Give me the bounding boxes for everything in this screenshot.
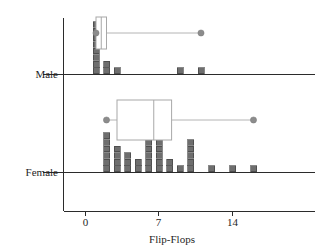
female-dot — [125, 166, 131, 172]
x-tick-label-0: 0 — [83, 216, 89, 228]
female-dot — [146, 146, 152, 152]
female-dot — [114, 146, 120, 152]
plot-area: 0 7 14 Flip-Flops Male Female — [0, 0, 325, 249]
male-dot — [104, 61, 110, 67]
male-dot — [177, 68, 183, 74]
female-dot — [209, 166, 215, 172]
x-axis-ticks — [86, 212, 233, 216]
male-dot — [93, 68, 99, 74]
female-dot — [251, 166, 257, 172]
series-layer — [93, 17, 257, 172]
female-dot — [156, 146, 162, 152]
male-dot — [93, 61, 99, 67]
female-dot — [230, 166, 236, 172]
female-dot — [104, 133, 110, 139]
female-dot — [156, 159, 162, 165]
female-dot — [156, 153, 162, 159]
female-dot — [177, 166, 183, 172]
female-dot — [114, 159, 120, 165]
x-axis-title: Flip-Flops — [149, 233, 195, 245]
female-dot — [188, 140, 194, 146]
female-dot — [146, 166, 152, 172]
female-dot — [114, 166, 120, 172]
female-dot — [167, 166, 173, 172]
female-min-marker — [103, 117, 109, 123]
female-dot — [114, 153, 120, 159]
female-dot — [188, 159, 194, 165]
female-dot — [167, 159, 173, 165]
male-dot — [104, 68, 110, 74]
female-dot — [104, 159, 110, 165]
x-tick-label-7: 7 — [156, 216, 162, 228]
female-box — [117, 100, 172, 140]
female-dot — [146, 159, 152, 165]
female-dot — [104, 153, 110, 159]
male-dot — [93, 55, 99, 61]
female-dot — [188, 166, 194, 172]
female-dot — [188, 153, 194, 159]
female-dot — [156, 166, 162, 172]
female-dot — [104, 140, 110, 146]
female-dot — [125, 153, 131, 159]
male-dot — [198, 68, 204, 74]
x-tick-label-14: 14 — [227, 216, 239, 228]
male-dotplot — [93, 22, 204, 74]
flip-flops-dotplot-boxplot-chart: 0 7 14 Flip-Flops Male Female — [0, 0, 325, 249]
male-boxplot — [93, 17, 204, 49]
group-label-male: Male — [35, 68, 58, 80]
female-dot — [146, 153, 152, 159]
male-max-marker — [198, 30, 204, 36]
female-dot — [135, 166, 141, 172]
female-max-marker — [250, 117, 256, 123]
female-dot — [188, 146, 194, 152]
male-dot — [114, 68, 120, 74]
female-dot — [104, 166, 110, 172]
female-dot — [125, 159, 131, 165]
group-label-female: Female — [26, 166, 58, 178]
female-boxplot — [103, 100, 256, 140]
female-dot — [135, 159, 141, 165]
female-dot — [104, 146, 110, 152]
male-min-marker — [93, 30, 99, 36]
